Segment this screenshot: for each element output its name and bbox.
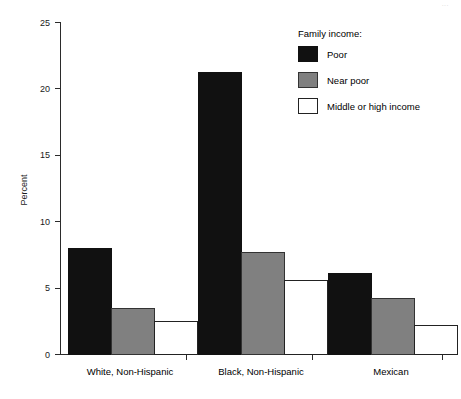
y-tick-label-10: 10 bbox=[40, 217, 50, 227]
bar-group-black-non-hispanic bbox=[198, 73, 327, 355]
bar-chart: 0 5 10 15 20 25 Percent bbox=[0, 0, 461, 399]
black-filled-swatch bbox=[298, 46, 317, 61]
y-tick-label-20: 20 bbox=[40, 84, 50, 94]
bar-middle-or-high-income-white-non-hispanic[interactable] bbox=[154, 321, 197, 354]
y-axis-ticks bbox=[55, 23, 61, 355]
legend-title: Family income: bbox=[298, 28, 362, 39]
legend-label-middle-or-high-income: Middle or high income bbox=[327, 101, 420, 112]
white-outlined-swatch bbox=[298, 98, 317, 113]
x-category-label-0: White, Non-Hispanic bbox=[87, 366, 174, 377]
figure-container: ... 0 5 10 15 20 25 Percent bbox=[0, 0, 461, 399]
bar-poor-mexican[interactable] bbox=[328, 273, 371, 354]
y-tick-label-25: 25 bbox=[40, 18, 50, 28]
gray-filled-swatch bbox=[298, 72, 317, 87]
legend-item-middle-or-high-income[interactable]: Middle or high income bbox=[298, 98, 420, 113]
bar-middle-or-high-income-black-non-hispanic[interactable] bbox=[284, 280, 327, 354]
legend-item-near-poor[interactable]: Near poor bbox=[298, 72, 369, 87]
y-tick-label-5: 5 bbox=[45, 283, 50, 293]
bar-poor-black-non-hispanic[interactable] bbox=[198, 73, 241, 355]
bar-near-poor-white-non-hispanic[interactable] bbox=[111, 308, 154, 354]
bar-near-poor-black-non-hispanic[interactable] bbox=[241, 252, 284, 354]
bar-group-mexican bbox=[328, 273, 457, 354]
legend-item-poor[interactable]: Poor bbox=[298, 46, 347, 61]
bar-near-poor-mexican[interactable] bbox=[371, 299, 414, 355]
y-tick-label-15: 15 bbox=[40, 150, 50, 160]
bar-middle-or-high-income-mexican[interactable] bbox=[414, 325, 457, 354]
bar-group-white-non-hispanic bbox=[68, 248, 197, 354]
legend-label-poor: Poor bbox=[327, 49, 347, 60]
x-axis-group-ticks bbox=[187, 355, 443, 361]
bar-poor-white-non-hispanic[interactable] bbox=[68, 248, 111, 354]
y-axis-title: Percent bbox=[19, 174, 29, 206]
y-tick-label-0: 0 bbox=[45, 350, 50, 360]
x-category-label-1: Black, Non-Hispanic bbox=[218, 366, 304, 377]
x-category-label-2: Mexican bbox=[373, 366, 408, 377]
legend: Family income: Poor Near poor Middle or … bbox=[298, 28, 420, 113]
legend-label-near-poor: Near poor bbox=[327, 75, 369, 86]
